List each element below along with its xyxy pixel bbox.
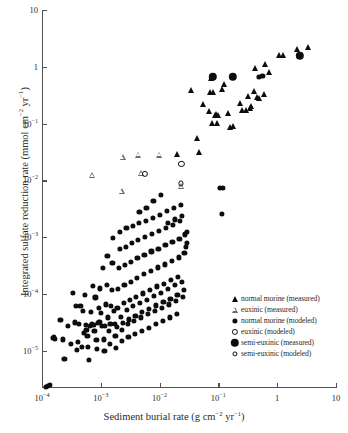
data-point <box>175 293 180 298</box>
data-point <box>68 341 73 346</box>
data-point <box>225 110 231 116</box>
legend-label: semi-euxinic (modeled) <box>241 349 311 358</box>
x-tick-mark <box>277 383 278 388</box>
data-point <box>143 218 148 223</box>
data-point <box>123 244 128 249</box>
data-point <box>153 321 158 326</box>
data-point <box>215 112 221 118</box>
data-point <box>157 228 162 233</box>
data-point <box>105 254 110 259</box>
data-point <box>163 243 168 248</box>
data-point <box>161 300 166 305</box>
data-point <box>82 293 87 298</box>
data-point <box>145 311 150 316</box>
data-point <box>131 318 136 323</box>
legend-item: semi-euxinic (modeled) <box>228 348 344 359</box>
legend-marker-filled-triangle-icon <box>228 293 241 304</box>
legend-label: normal morine (modeled) <box>241 316 317 325</box>
legend-item: normal morine (measured) <box>228 293 344 304</box>
data-point <box>134 275 139 280</box>
x-tick-label: 10−1 <box>211 394 226 403</box>
data-point <box>58 318 63 323</box>
data-point <box>154 303 159 308</box>
x-tick-mark <box>336 383 337 388</box>
legend-marker-open-triangle-icon <box>228 304 241 315</box>
data-point <box>262 61 268 67</box>
data-point <box>122 263 127 268</box>
data-point <box>136 221 141 226</box>
data-point <box>135 152 141 158</box>
data-point <box>145 297 150 302</box>
data-point <box>165 221 170 226</box>
data-point <box>110 260 115 265</box>
data-point <box>79 344 84 349</box>
data-point <box>188 87 194 93</box>
data-point <box>71 290 76 295</box>
data-point <box>89 172 95 178</box>
data-point <box>122 282 127 287</box>
data-point <box>86 358 91 363</box>
legend-item: euxinic (modeled) <box>228 326 344 337</box>
data-point <box>171 205 176 210</box>
data-point <box>137 210 142 215</box>
y-tick-mark <box>43 67 47 68</box>
data-point <box>169 258 174 263</box>
data-point <box>179 213 184 218</box>
data-point <box>150 216 155 221</box>
data-point <box>162 262 167 267</box>
y-tick-mark <box>43 294 47 295</box>
data-point <box>194 135 200 141</box>
data-point <box>184 241 189 246</box>
data-point <box>172 217 177 222</box>
data-point <box>182 250 187 255</box>
data-point <box>171 222 176 227</box>
data-point <box>107 341 112 346</box>
data-point <box>157 212 162 217</box>
data-point <box>121 301 126 306</box>
x-axis-line <box>42 387 336 388</box>
data-point <box>173 298 178 303</box>
legend-label: semi-euxinic (measured) <box>241 338 314 347</box>
data-point <box>120 338 125 343</box>
y-tick-mark <box>43 124 47 125</box>
data-point <box>129 259 134 264</box>
data-point <box>98 310 103 315</box>
x-tick-mark <box>160 383 161 388</box>
y-tick-mark <box>43 237 47 238</box>
data-point <box>125 321 130 326</box>
legend-item: normal morine (modeled) <box>228 315 344 326</box>
data-point <box>261 91 267 97</box>
y-tick-mark <box>43 180 47 181</box>
data-point <box>127 298 132 303</box>
data-point <box>104 282 109 287</box>
data-point <box>210 89 216 95</box>
x-tick-label: 1 <box>275 394 279 403</box>
data-point <box>118 229 123 234</box>
data-point <box>152 308 157 313</box>
data-point <box>221 81 227 87</box>
data-point <box>174 151 180 157</box>
data-point <box>111 235 116 240</box>
data-point <box>102 349 107 354</box>
data-point <box>62 356 67 361</box>
x-tick-mark <box>218 383 219 388</box>
y-tick-mark <box>43 351 47 352</box>
data-point <box>138 300 143 305</box>
data-point <box>155 265 160 270</box>
data-point <box>154 284 159 289</box>
data-point <box>113 345 118 350</box>
data-point <box>252 65 258 71</box>
data-point <box>124 225 129 230</box>
data-point <box>116 286 121 291</box>
data-point <box>151 198 156 203</box>
data-point <box>209 73 217 81</box>
legend-marker-small-open-circle-icon <box>228 348 241 359</box>
data-point <box>305 44 311 50</box>
data-point <box>149 249 154 254</box>
data-point <box>152 293 157 298</box>
data-point <box>167 315 172 320</box>
data-point <box>85 333 90 338</box>
data-point <box>142 252 147 257</box>
data-point <box>101 337 106 342</box>
data-point <box>159 305 164 310</box>
